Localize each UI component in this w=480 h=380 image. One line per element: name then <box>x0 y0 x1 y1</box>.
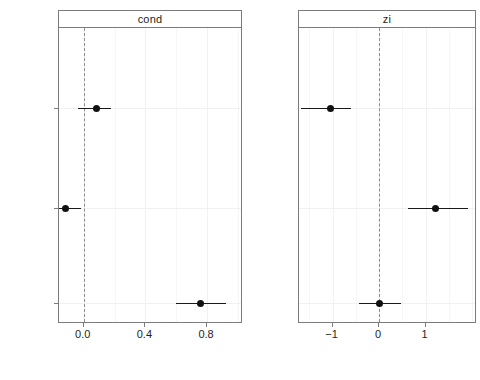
zero-reference-line <box>379 28 380 322</box>
x-axis-tick-label: 1 <box>422 328 428 340</box>
x-axis-tick-label: 0.4 <box>137 328 152 340</box>
x-axis-tick <box>144 323 145 327</box>
gridline-vertical-minor <box>356 28 357 322</box>
plot-area-cond <box>58 28 242 323</box>
x-axis-tick-label: 0.0 <box>75 328 90 340</box>
gridline-vertical-minor <box>238 28 239 322</box>
gridline-vertical-major <box>207 28 208 322</box>
gridline-vertical-minor <box>402 28 403 322</box>
gridline-horizontal <box>59 208 241 209</box>
facet-strip-cond: cond <box>58 10 242 28</box>
x-axis-tick-label: −1 <box>325 328 338 340</box>
gridline-vertical-minor <box>449 28 450 322</box>
estimate-point <box>197 300 204 307</box>
x-axis-tick-label: 0 <box>375 328 381 340</box>
coefficient-plot: PrecipBreeding Density(Intercept) cond 0… <box>0 0 480 380</box>
facet-panel-zi: zi −101 <box>298 10 476 340</box>
gridline-vertical-minor <box>115 28 116 322</box>
plot-area-zi <box>298 28 476 323</box>
gridline-vertical-major <box>426 28 427 322</box>
estimate-point <box>376 300 383 307</box>
x-axis-tick <box>206 323 207 327</box>
gridline-vertical-minor <box>176 28 177 322</box>
facet-strip-label-cond: cond <box>138 14 163 25</box>
x-axis-tick <box>425 323 426 327</box>
x-axis-tick <box>83 323 84 327</box>
x-axis-tick-label: 0.8 <box>198 328 213 340</box>
x-axis-tick <box>378 323 379 327</box>
x-axis-zi: −101 <box>298 323 476 347</box>
estimate-point <box>432 205 439 212</box>
gridline-vertical-minor <box>472 28 473 322</box>
facet-panel-cond: cond 0.00.40.8 <box>58 10 242 340</box>
facet-strip-zi: zi <box>298 10 476 28</box>
x-axis-cond: 0.00.40.8 <box>58 323 242 347</box>
gridline-vertical-major <box>145 28 146 322</box>
estimate-point <box>93 105 100 112</box>
zero-reference-line <box>84 28 85 322</box>
gridline-vertical-major <box>333 28 334 322</box>
estimate-point <box>62 205 69 212</box>
facet-strip-label-zi: zi <box>383 14 391 25</box>
gridline-vertical-minor <box>309 28 310 322</box>
x-axis-tick <box>332 323 333 327</box>
